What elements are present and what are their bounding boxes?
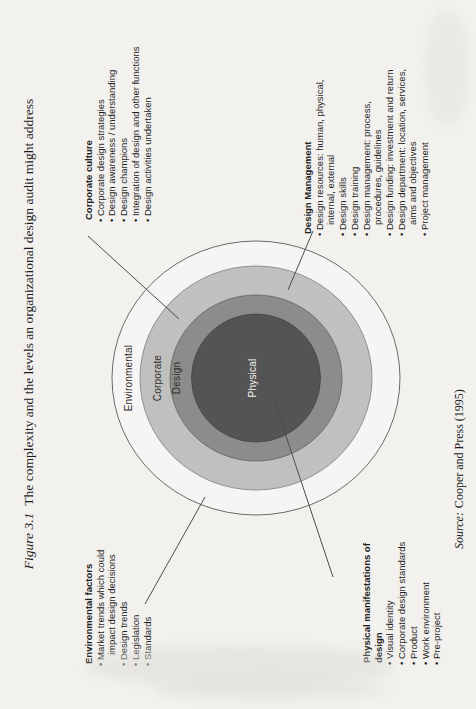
callout-header-continuation: design: [373, 542, 385, 663]
callout-corporate-culture: Corporate culture Corporate design strat…: [83, 46, 153, 222]
bullet-line: Design activities undertaken: [142, 46, 154, 222]
bullet-line-continuation: aims and objectives: [407, 69, 419, 236]
connector-environmental-factors: [145, 497, 205, 604]
callout-header: Physical manifestations of: [361, 542, 373, 663]
source-line: Source:Cooper and Press (1995): [452, 389, 467, 549]
bullet-line: Design resources: human, physical,: [314, 69, 326, 236]
ring-label-corporate: Corporate: [152, 278, 163, 478]
bullet-line-continuation: impact design decisions: [106, 550, 118, 666]
bullet-line: Design trends: [118, 550, 130, 666]
bullet-line: Work environment: [420, 542, 432, 665]
bullet-line: Market trends which could: [95, 550, 107, 666]
bullet-line: Design awareness / understanding: [106, 46, 118, 222]
scanned-page: Figure 3.1The complexity and the levels …: [0, 0, 476, 709]
bullet-line: Design training: [349, 69, 361, 236]
callout-header: Corporate culture: [83, 46, 95, 220]
scan-noise: [424, 8, 470, 128]
bullet-line: Design department: location, services,: [396, 69, 408, 236]
bullet-line: Design funding: investment and return: [384, 69, 396, 236]
callout-design-management: Design Management Design resources: huma…: [302, 69, 431, 236]
ring-label-environmental: Environmental: [123, 278, 134, 478]
bullet-line: Design management: process,: [361, 69, 373, 236]
source-label: Source:: [452, 512, 466, 549]
bullet-line: Legislation: [130, 550, 142, 666]
bullet-line-continuation: procedures, guidelines: [372, 69, 384, 236]
bullet-line: Design champions: [118, 46, 130, 222]
ring-label-physical: Physical: [247, 278, 258, 478]
bullet-line: Corporate design standards: [396, 542, 408, 665]
ring-label-design: Design: [171, 278, 182, 478]
bullet-line-continuation: internal, external: [325, 69, 337, 236]
callout-physical-manifestations: Physical manifestations of design Visual…: [361, 542, 443, 665]
callout-header: Design Management: [302, 69, 314, 234]
figure-page: Figure 3.1The complexity and the levels …: [0, 0, 476, 709]
callout-header: Environmental factors: [83, 550, 95, 664]
bullet-line: Visual identity: [384, 542, 396, 665]
scan-noise: [150, 678, 390, 700]
bullet-line: Pre-project: [431, 542, 443, 665]
bullet-line: Design skills: [337, 69, 349, 236]
bullet-line: Product: [408, 542, 420, 665]
bullet-line: Integration of design and other function…: [130, 46, 142, 222]
bullet-line: Corporate design strategies: [95, 46, 107, 222]
source-text: Cooper and Press (1995): [452, 389, 466, 508]
callout-environmental-factors: Environmental factors Market trends whic…: [83, 550, 153, 666]
